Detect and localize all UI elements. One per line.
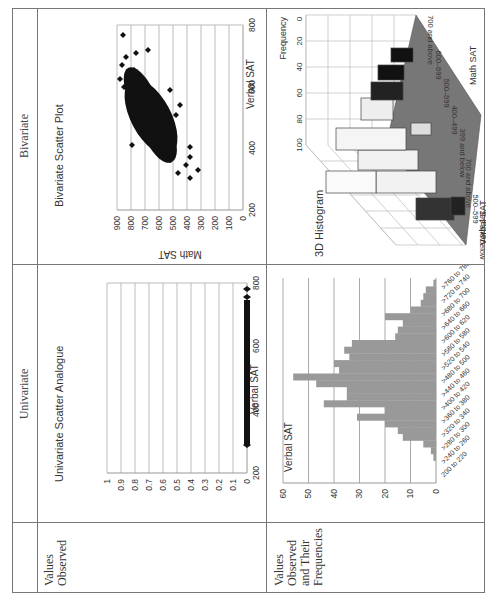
bivariate-scatter-chart: 0100200 300400500 600700800 900 200400 6… xyxy=(37,7,266,265)
histogram-bar xyxy=(357,414,436,421)
svg-text:30: 30 xyxy=(354,489,364,499)
histogram-bar xyxy=(433,454,436,461)
svg-text:700: 700 xyxy=(140,216,150,230)
histogram-bar xyxy=(385,313,436,320)
histogram-bar xyxy=(347,387,436,394)
svg-text:600–699: 600–699 xyxy=(434,50,443,79)
scatter-points xyxy=(114,32,201,181)
histogram-bar xyxy=(398,427,436,434)
3d-verbal-label: Verbal SAT xyxy=(478,200,486,245)
histogram-bar xyxy=(293,374,436,381)
svg-text:0.3: 0.3 xyxy=(200,479,210,491)
xlabel-bivariate-scatter: Verbal SAT xyxy=(245,59,256,109)
row-header-values-observed: Values Observed xyxy=(43,540,69,586)
svg-text:20: 20 xyxy=(295,36,304,45)
svg-text:40: 40 xyxy=(295,62,304,71)
row-header-values-frequencies: Values Observed and Their Frequencies xyxy=(273,528,325,586)
histogram-bar xyxy=(403,320,436,327)
histogram-bar xyxy=(421,300,436,307)
histogram-bar xyxy=(344,347,436,354)
svg-text:0.4: 0.4 xyxy=(186,479,196,491)
svg-text:200: 200 xyxy=(210,216,220,230)
svg-text:600: 600 xyxy=(154,216,164,230)
3d-math-label: Math SAT xyxy=(468,45,478,85)
svg-text:60: 60 xyxy=(278,489,288,499)
svg-text:100: 100 xyxy=(295,138,304,152)
svg-text:100: 100 xyxy=(224,216,234,230)
svg-text:800: 800 xyxy=(126,216,136,230)
svg-text:0.9: 0.9 xyxy=(116,479,126,491)
svg-text:200: 200 xyxy=(251,466,261,480)
col-header-univariate: Univariate xyxy=(17,265,32,523)
svg-text:600: 600 xyxy=(251,339,261,353)
svg-text:400: 400 xyxy=(247,141,257,155)
svg-text:500–599: 500–599 xyxy=(442,78,451,107)
histogram-bar xyxy=(395,333,436,340)
histogram-bars xyxy=(293,280,436,461)
histogram-bar xyxy=(334,360,436,367)
svg-text:400: 400 xyxy=(182,216,192,230)
histogram-bar xyxy=(385,420,436,427)
xlabel-univariate-scatter: Verbal SAT xyxy=(249,364,260,414)
ylabel-bivariate-scatter: Math SAT xyxy=(158,249,202,260)
svg-text:20: 20 xyxy=(380,489,390,499)
svg-text:0.2: 0.2 xyxy=(214,479,224,491)
svg-text:10: 10 xyxy=(405,489,415,499)
svg-text:80: 80 xyxy=(295,114,304,123)
svg-text:1: 1 xyxy=(102,479,112,484)
svg-text:300: 300 xyxy=(196,216,206,230)
rotated-page: Univariate Bivariate Values Observed Val… xyxy=(0,0,496,603)
svg-text:0.1: 0.1 xyxy=(228,479,238,491)
svg-text:0.6: 0.6 xyxy=(158,479,168,491)
verbal-histogram-chart: 01020 30405060 200 to 220>240 to 260>280… xyxy=(266,265,486,523)
3d-histogram-chart: 1008060 40200 Frequency 700 and above 60… xyxy=(266,7,486,265)
histogram-bar xyxy=(352,340,436,347)
display-table: Univariate Bivariate Values Observed Val… xyxy=(12,8,485,593)
3d-zlabel: Frequency xyxy=(278,17,288,60)
histogram-bar xyxy=(398,327,436,334)
histogram-bar xyxy=(431,447,436,454)
histogram-bar xyxy=(423,441,436,448)
svg-text:900: 900 xyxy=(112,216,122,230)
histogram-bar xyxy=(349,353,436,360)
col-header-bivariate: Bivariate xyxy=(17,7,32,265)
svg-text:0: 0 xyxy=(431,489,441,494)
svg-text:50: 50 xyxy=(303,489,313,499)
svg-text:0.8: 0.8 xyxy=(130,479,140,491)
histogram-bar xyxy=(426,286,436,293)
svg-text:700 and above: 700 and above xyxy=(426,15,435,65)
histogram-bar xyxy=(324,400,436,407)
svg-text:0.7: 0.7 xyxy=(144,479,154,491)
univariate-scatter-chart: 00.10.2 0.30.40.5 0.60.70.8 0.91 200400 … xyxy=(37,265,266,523)
svg-text:0: 0 xyxy=(295,16,304,21)
svg-text:60: 60 xyxy=(295,88,304,97)
histogram-bar xyxy=(339,367,436,374)
svg-text:40: 40 xyxy=(329,489,339,499)
svg-text:400–499: 400–499 xyxy=(450,105,459,134)
svg-text:200: 200 xyxy=(247,203,257,217)
histogram-bar xyxy=(403,434,436,441)
histogram-bar xyxy=(347,394,436,401)
svg-text:0.5: 0.5 xyxy=(172,479,182,491)
histogram-bar xyxy=(316,380,436,387)
histogram-bar xyxy=(411,307,437,314)
histogram-bar xyxy=(385,407,436,414)
svg-text:500: 500 xyxy=(168,216,178,230)
svg-text:800: 800 xyxy=(251,276,261,290)
histogram-bar xyxy=(433,280,436,287)
svg-text:800: 800 xyxy=(247,18,257,32)
histogram-bar xyxy=(423,293,436,300)
